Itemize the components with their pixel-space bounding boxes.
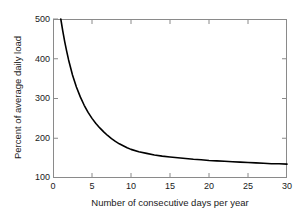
x-tick-label: 5 xyxy=(77,182,107,191)
y-tick-label: 200 xyxy=(20,134,50,143)
y-tick-label: 100 xyxy=(20,173,50,182)
x-tick-label: 30 xyxy=(272,182,302,191)
plot-canvas xyxy=(53,19,287,178)
y-axis-ticks xyxy=(53,19,287,138)
data-series-line xyxy=(61,19,287,164)
x-axis-ticks xyxy=(92,19,248,178)
x-tick-label: 15 xyxy=(155,182,185,191)
x-axis-tick-labels: 0 5 10 15 20 25 30 xyxy=(0,182,306,194)
chart-figure: 500 400 300 200 100 xyxy=(0,0,306,221)
x-axis-label: Number of consecutive days per year xyxy=(53,197,287,208)
y-tick-label: 500 xyxy=(20,15,50,24)
x-tick-label: 0 xyxy=(38,182,68,191)
x-tick-label: 10 xyxy=(116,182,146,191)
x-tick-label: 25 xyxy=(233,182,263,191)
y-tick-label: 300 xyxy=(20,94,50,103)
y-tick-label: 400 xyxy=(20,55,50,64)
y-axis-label: Percent of average daily load xyxy=(12,18,23,177)
x-tick-label: 20 xyxy=(194,182,224,191)
